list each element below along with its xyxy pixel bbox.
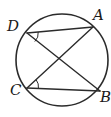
geometry-diagram: A B C D xyxy=(0,0,111,117)
vertex-label-d: D xyxy=(7,19,19,34)
angle-mark-at-c-icon xyxy=(36,80,38,89)
chord-c-a xyxy=(27,27,93,88)
vertex-label-c: C xyxy=(10,83,21,98)
chord-d-a xyxy=(27,27,93,33)
vertex-label-b: B xyxy=(100,90,111,105)
vertex-label-a: A xyxy=(93,8,104,23)
chord-c-b xyxy=(27,88,100,91)
